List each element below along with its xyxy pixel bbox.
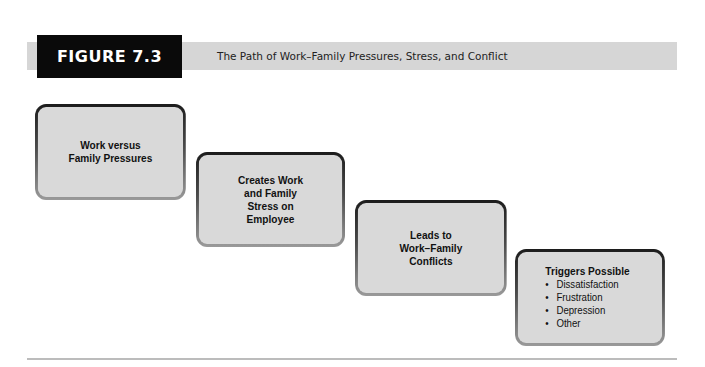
step-line: Work versus bbox=[80, 139, 141, 152]
step-line: Work–Family bbox=[399, 242, 462, 255]
footer-divider bbox=[27, 358, 677, 360]
step-triggers-possible: Triggers Possible •Dissatisfaction •Frus… bbox=[515, 249, 665, 346]
bullet-icon: • bbox=[545, 317, 556, 330]
step-leads-to-conflicts: Leads to Work–Family Conflicts bbox=[355, 200, 507, 296]
trigger-item: •Frustration bbox=[545, 291, 629, 304]
bullet-icon: • bbox=[545, 304, 556, 317]
step-creates-stress: Creates Work and Family Stress on Employ… bbox=[196, 152, 345, 247]
step-line: Creates Work bbox=[238, 174, 303, 187]
trigger-item: •Dissatisfaction bbox=[545, 278, 629, 291]
trigger-list: •Dissatisfaction •Frustration •Depressio… bbox=[545, 278, 629, 330]
trigger-item: •Depression bbox=[545, 304, 629, 317]
step-line: and Family bbox=[244, 187, 297, 200]
step-line: Family Pressures bbox=[69, 152, 153, 165]
step-title: Triggers Possible bbox=[545, 265, 629, 278]
figure-title: The Path of Work–Family Pressures, Stres… bbox=[217, 42, 508, 70]
trigger-item: •Other bbox=[545, 317, 629, 330]
step-line: Stress on bbox=[247, 200, 293, 213]
step-line: Leads to bbox=[410, 229, 452, 242]
figure-label: FIGURE 7.3 bbox=[37, 35, 182, 78]
bullet-icon: • bbox=[545, 278, 556, 291]
step-line: Employee bbox=[247, 213, 295, 226]
step-work-family-pressures: Work versus Family Pressures bbox=[35, 104, 186, 200]
bullet-icon: • bbox=[545, 291, 556, 304]
step-line: Conflicts bbox=[409, 255, 452, 268]
